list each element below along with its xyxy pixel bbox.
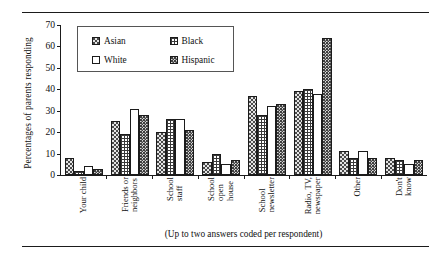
bar-group — [290, 25, 336, 175]
legend-item-black: Black — [156, 37, 234, 46]
x-label-0: Your child — [79, 177, 88, 213]
legend-label-black: Black — [182, 37, 204, 46]
bar-hispanic-4 — [276, 104, 286, 175]
legend-swatch-black — [170, 37, 178, 45]
bar-asian-2 — [156, 132, 166, 175]
figure-container: Percentages of parents responding 010203… — [0, 0, 447, 259]
legend-label-hispanic: Hispanic — [182, 56, 215, 65]
bar-hispanic-2 — [185, 130, 195, 175]
legend-row: White Hispanic — [78, 51, 233, 70]
bar-asian-3 — [202, 162, 212, 175]
bar-hispanic-5 — [322, 38, 332, 175]
x-label-line: newsletter — [267, 177, 276, 212]
legend-label-asian: Asian — [104, 37, 126, 46]
x-axis-labels: Your childFriends orneighborsSchoolstaff… — [61, 177, 427, 235]
bar-asian-1 — [111, 121, 121, 175]
bar-black-7 — [395, 160, 405, 175]
y-tick-mark — [57, 175, 61, 176]
bar-white-7 — [404, 164, 414, 175]
bar-asian-5 — [294, 91, 304, 175]
bar-hispanic-1 — [139, 115, 149, 175]
bar-white-6 — [358, 151, 368, 175]
x-label-cell: Schoolstaff — [153, 177, 199, 235]
bar-white-2 — [175, 119, 185, 175]
x-label-line: newspaper — [313, 177, 322, 214]
x-label-4: Schoolnewsletter — [257, 177, 276, 212]
x-label-line: house — [226, 177, 235, 201]
bar-group — [336, 25, 382, 175]
x-label-line: neighbors — [130, 177, 139, 212]
x-label-cell: Don'tknow — [381, 177, 427, 235]
legend-item-hispanic: Hispanic — [156, 56, 234, 65]
bar-hispanic-7 — [414, 160, 424, 175]
bottom-rule — [22, 246, 429, 247]
legend-swatch-white — [92, 56, 100, 64]
bar-hispanic-0 — [93, 169, 103, 175]
legend-swatch-asian — [92, 37, 100, 45]
bar-black-4 — [257, 115, 267, 175]
bar-white-0 — [84, 166, 94, 175]
x-label-cell: Schoolnewsletter — [244, 177, 290, 235]
bar-black-2 — [166, 119, 176, 175]
x-label-line: Your child — [79, 177, 88, 213]
bar-white-3 — [221, 164, 231, 175]
bar-group — [381, 25, 427, 175]
x-label-7: Don'tknow — [395, 177, 414, 196]
bar-group — [244, 25, 290, 175]
legend: Asian Black White Hispanic — [77, 26, 234, 72]
x-label-cell: Other — [336, 177, 382, 235]
x-label-2: Schoolstaff — [166, 177, 185, 201]
x-label-cell: Radio, TV,newspaper — [290, 177, 336, 235]
bar-black-6 — [349, 158, 359, 175]
x-label-line: staff — [175, 177, 184, 201]
legend-item-white: White — [78, 56, 156, 65]
x-label-5: Radio, TV,newspaper — [303, 177, 322, 214]
x-label-line: Other — [354, 177, 363, 197]
bar-white-1 — [130, 109, 140, 175]
bar-asian-0 — [65, 158, 75, 175]
bar-asian-4 — [248, 96, 258, 175]
x-label-cell: Friends orneighbors — [107, 177, 153, 235]
x-label-line: know — [404, 177, 413, 196]
legend-swatch-hispanic — [170, 56, 178, 64]
bar-black-1 — [120, 134, 130, 175]
x-label-cell: Schoolopenhouse — [198, 177, 244, 235]
x-label-6: Other — [354, 177, 363, 197]
figure-caption: (Up to two answers coded per respondent) — [0, 229, 447, 239]
bar-black-0 — [74, 171, 84, 175]
bar-hispanic-3 — [231, 160, 241, 175]
bar-hispanic-6 — [368, 158, 378, 175]
top-rule — [22, 12, 429, 13]
legend-label-white: White — [104, 56, 127, 65]
legend-item-asian: Asian — [78, 37, 156, 46]
bar-black-3 — [212, 154, 222, 175]
bar-white-5 — [313, 94, 323, 175]
bar-asian-6 — [339, 151, 349, 175]
bar-asian-7 — [385, 158, 395, 175]
x-label-cell: Your child — [61, 177, 107, 235]
legend-row: Asian Black — [78, 32, 233, 51]
bar-white-4 — [267, 106, 277, 175]
x-label-1: Friends orneighbors — [120, 177, 139, 212]
bar-black-5 — [303, 89, 313, 175]
x-label-3: Schoolopenhouse — [207, 177, 235, 201]
